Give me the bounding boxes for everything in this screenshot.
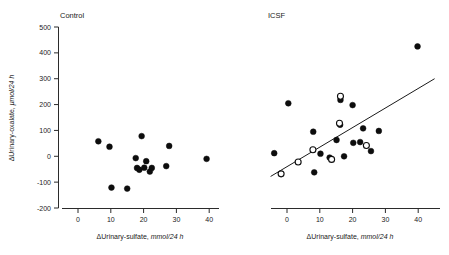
panel-title-control: Control bbox=[60, 11, 85, 20]
data-point-filled bbox=[141, 165, 147, 171]
x-tick-20-icsf: 20 bbox=[349, 216, 357, 223]
data-point-filled bbox=[133, 155, 139, 161]
data-point-filled bbox=[341, 153, 347, 159]
y-axis-title: ΔUrinary-oxalate, μmol/24 h bbox=[8, 75, 16, 162]
x-axis-tick-labels-icsf: 0 10 20 30 40 bbox=[285, 216, 422, 223]
data-point-filled bbox=[204, 156, 210, 162]
x-axis-ticks-control bbox=[78, 209, 209, 214]
y-axis-ticks bbox=[54, 27, 59, 208]
x-tick-40-control: 40 bbox=[205, 216, 213, 223]
data-point-filled bbox=[163, 163, 169, 169]
y-tick-100: 100 bbox=[39, 127, 51, 134]
y-axis-title-delta: ΔUrinary-oxalate, bbox=[8, 105, 16, 161]
x-tick-10-control: 10 bbox=[107, 216, 115, 223]
data-point-filled bbox=[107, 144, 113, 150]
y-tick-neg200: -200 bbox=[37, 205, 51, 212]
data-point-open bbox=[310, 147, 316, 153]
data-point-filled bbox=[360, 125, 366, 131]
x-tick-30-control: 30 bbox=[173, 216, 181, 223]
y-tick-neg100: -100 bbox=[37, 179, 51, 186]
y-tick-200: 200 bbox=[39, 101, 51, 108]
data-point-filled bbox=[350, 102, 356, 108]
y-tick-0: 0 bbox=[47, 153, 51, 160]
x-axis-ticks-icsf bbox=[287, 209, 418, 214]
data-point-open bbox=[336, 120, 342, 126]
data-point-filled bbox=[271, 150, 277, 156]
data-point-filled bbox=[139, 133, 145, 139]
data-point-filled bbox=[285, 100, 291, 106]
data-point-filled bbox=[95, 138, 101, 144]
figure-container: Control 500 400 300 200 100 0 bbox=[0, 0, 449, 255]
data-point-filled bbox=[334, 137, 340, 143]
data-point-filled bbox=[143, 158, 149, 164]
y-tick-500: 500 bbox=[39, 24, 51, 31]
x-axis-title-units-icsf: mmol/24 h bbox=[361, 233, 394, 240]
data-point-open bbox=[363, 142, 369, 148]
data-point-filled bbox=[318, 151, 324, 157]
data-point-filled bbox=[350, 140, 356, 146]
x-tick-40-icsf: 40 bbox=[414, 216, 422, 223]
data-point-filled bbox=[368, 148, 374, 154]
data-point-filled bbox=[415, 43, 421, 49]
data-points-icsf bbox=[271, 43, 420, 176]
x-axis-title-delta-icsf: ΔUrinary-sulfate, bbox=[307, 233, 361, 241]
y-axis-title-units: μmol/24 h bbox=[8, 75, 16, 107]
scatter-plot-figure: Control 500 400 300 200 100 0 bbox=[0, 0, 449, 255]
x-tick-20-control: 20 bbox=[140, 216, 148, 223]
x-tick-30-icsf: 30 bbox=[382, 216, 390, 223]
data-point-filled bbox=[357, 139, 363, 145]
data-points-control bbox=[95, 133, 209, 191]
data-point-filled bbox=[109, 185, 115, 191]
panel-title-icsf: ICSF bbox=[268, 11, 286, 20]
panel-control: Control 500 400 300 200 100 0 bbox=[8, 11, 219, 241]
data-point-filled bbox=[166, 143, 172, 149]
x-axis-title-control: ΔUrinary-sulfate, mmol/24 h bbox=[97, 233, 184, 241]
x-axis-title-units-control: mmol/24 h bbox=[151, 233, 184, 240]
y-axis-tick-labels: 500 400 300 200 100 0 -100 -200 bbox=[37, 24, 51, 212]
data-point-open bbox=[295, 159, 301, 165]
data-point-filled bbox=[149, 165, 155, 171]
y-tick-300: 300 bbox=[39, 75, 51, 82]
panel-icsf: ICSF 0 10 20 30 40 ΔUrinary-sulfate, mmo… bbox=[268, 11, 440, 241]
x-tick-10-icsf: 10 bbox=[316, 216, 324, 223]
y-tick-400: 400 bbox=[39, 49, 51, 56]
data-point-open bbox=[329, 156, 335, 162]
data-point-open bbox=[278, 171, 284, 177]
data-point-filled bbox=[376, 128, 382, 134]
data-point-filled bbox=[311, 169, 317, 175]
x-axis-title-icsf: ΔUrinary-sulfate, mmol/24 h bbox=[307, 233, 394, 241]
data-point-filled bbox=[124, 186, 130, 192]
x-tick-0-icsf: 0 bbox=[285, 216, 289, 223]
x-axis-title-delta-control: ΔUrinary-sulfate, bbox=[97, 233, 151, 241]
x-axis-tick-labels-control: 0 10 20 30 40 bbox=[76, 216, 213, 223]
data-point-filled bbox=[310, 129, 316, 135]
x-tick-0-control: 0 bbox=[76, 216, 80, 223]
data-point-open bbox=[337, 93, 343, 99]
